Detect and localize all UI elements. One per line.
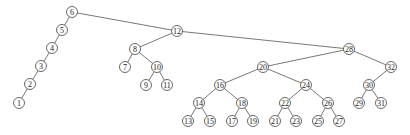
node-label: 2 [28,80,32,89]
tree-node-25: 25 [313,116,324,127]
node-label: 7 [123,63,127,72]
tree-node-16: 16 [215,80,226,91]
node-label: 12 [173,27,181,36]
tree-node-1: 1 [14,98,25,109]
node-label: 30 [365,81,373,90]
tree-edge [220,67,263,85]
node-label: 25 [314,117,322,126]
tree-node-31: 31 [376,98,387,109]
tree-node-22: 22 [280,98,291,109]
tree-node-6: 6 [67,7,78,18]
tree-node-14: 14 [194,98,205,109]
tree-node-18: 18 [237,98,248,109]
tree-node-30: 30 [364,80,375,91]
tree-node-28: 28 [344,44,355,55]
node-label: 9 [144,81,148,90]
node-label: 1 [17,99,21,108]
tree-edges [19,12,391,121]
node-label: 26 [324,99,332,108]
node-label: 27 [335,117,343,126]
node-label: 15 [206,117,214,126]
tree-node-23: 23 [291,116,302,127]
node-label: 23 [292,117,300,126]
node-label: 32 [387,63,395,72]
node-label: 17 [228,117,236,126]
tree-edge [263,67,306,85]
binary-tree-diagram: 6543211287109112820162414182226131517192… [0,0,410,135]
node-label: 4 [50,44,54,53]
node-label: 28 [345,45,353,54]
tree-edge [135,31,177,49]
tree-node-9: 9 [141,80,152,91]
node-label: 16 [216,81,224,90]
tree-edge [349,49,391,67]
node-label: 14 [195,99,203,108]
node-label: 21 [271,117,279,126]
node-label: 5 [60,26,64,35]
node-label: 13 [184,117,192,126]
tree-node-29: 29 [354,98,365,109]
tree-node-10: 10 [152,62,163,73]
tree-node-27: 27 [334,116,345,127]
tree-edge [263,49,349,67]
node-label: 10 [153,63,161,72]
tree-node-7: 7 [120,62,131,73]
tree-node-24: 24 [301,80,312,91]
node-label: 24 [302,81,310,90]
tree-node-12: 12 [172,26,183,37]
tree-node-26: 26 [323,98,334,109]
tree-edge [177,31,349,49]
node-label: 11 [163,81,171,90]
node-label: 31 [377,99,385,108]
tree-node-8: 8 [130,44,141,55]
node-label: 20 [259,63,267,72]
tree-node-19: 19 [248,116,259,127]
tree-node-13: 13 [183,116,194,127]
node-label: 29 [355,99,363,108]
tree-node-32: 32 [386,62,397,73]
tree-node-15: 15 [205,116,216,127]
tree-node-11: 11 [162,80,173,91]
node-label: 19 [249,117,257,126]
node-label: 3 [39,62,43,71]
node-label: 8 [133,45,137,54]
tree-node-3: 3 [36,61,47,72]
tree-node-5: 5 [57,25,68,36]
tree-node-4: 4 [47,43,58,54]
node-label: 6 [70,8,74,17]
tree-nodes: 6543211287109112820162414182226131517192… [14,7,397,127]
node-label: 22 [281,99,289,108]
tree-node-21: 21 [270,116,281,127]
tree-edge [72,12,177,31]
tree-node-2: 2 [25,79,36,90]
node-label: 18 [238,99,246,108]
tree-node-17: 17 [227,116,238,127]
tree-node-20: 20 [258,62,269,73]
